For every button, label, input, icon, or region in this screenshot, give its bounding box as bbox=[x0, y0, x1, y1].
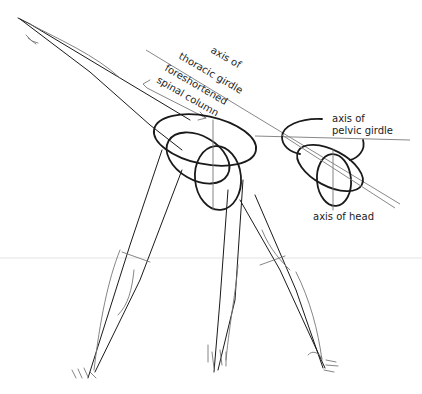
label-pelvic-axis-2: pelvic girdle bbox=[332, 125, 393, 136]
left-calf-contour bbox=[94, 250, 120, 370]
pelvis-ellipse bbox=[158, 122, 239, 194]
label-thoracic-axis-1: axis of bbox=[209, 44, 243, 70]
pelvic-girdle-arc-right bbox=[350, 140, 364, 160]
small-head-oval bbox=[315, 153, 353, 208]
hand-sketch bbox=[26, 35, 38, 44]
center-leg-left bbox=[214, 190, 228, 372]
figure-drawing-canvas: axis of thoracic girdle foreshortened sp… bbox=[0, 0, 422, 394]
small-thoracic-axis bbox=[282, 135, 395, 208]
head-oval bbox=[192, 144, 243, 212]
right-leg-inner bbox=[240, 200, 325, 368]
right-foot-sketch bbox=[308, 352, 338, 372]
left-leg-outer bbox=[88, 150, 162, 378]
right-calf-contour bbox=[296, 272, 322, 360]
center-leg-contour bbox=[226, 265, 238, 360]
left-foot-sketch bbox=[72, 368, 96, 378]
pelvic-axis-line bbox=[255, 136, 410, 140]
thoracic-girdle-ellipse bbox=[149, 106, 261, 175]
label-pelvic-axis-1: axis of bbox=[332, 113, 365, 124]
left-leg-inner bbox=[95, 170, 182, 372]
label-head-axis: axis of head bbox=[313, 211, 374, 222]
sketch-svg: axis of thoracic girdle foreshortened sp… bbox=[0, 0, 422, 394]
